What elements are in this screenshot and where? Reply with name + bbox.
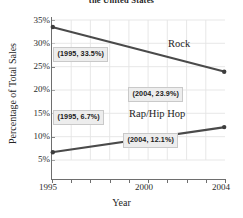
x-tick-label-1995: 1995 bbox=[39, 183, 57, 192]
x-tick-mark-1997 bbox=[90, 179, 91, 183]
y-tick-label-15: 15% bbox=[4, 109, 50, 118]
y-tick-label-30: 30% bbox=[4, 39, 50, 48]
data-point-rap-1995 bbox=[51, 150, 55, 154]
y-tick-label-25: 25% bbox=[4, 62, 50, 71]
rap-1995-callout: (1995, 6.7%) bbox=[53, 110, 104, 125]
rap-2004-callout: (2004, 12.1%) bbox=[123, 133, 178, 148]
rock-2004-callout: (2004, 23.9%) bbox=[128, 87, 183, 102]
y-tick-label-20: 20% bbox=[4, 85, 50, 94]
x-tick-mark-1996 bbox=[71, 179, 72, 183]
rock-1995-callout: (1995, 33.5%) bbox=[53, 47, 108, 62]
series-label-rap-hip-hop: Rap/Hip Hop bbox=[129, 108, 185, 119]
x-tick-mark-2001 bbox=[167, 179, 168, 183]
x-axis-label: Year bbox=[0, 197, 243, 208]
y-tick-label-5: 5% bbox=[4, 155, 50, 164]
x-tick-label-2004: 2004 bbox=[212, 183, 230, 192]
data-point-rock-1995 bbox=[51, 25, 55, 29]
series-label-rock: Rock bbox=[168, 38, 190, 49]
data-point-rock-2004 bbox=[222, 70, 226, 74]
x-tick-mark-1998 bbox=[110, 179, 111, 183]
data-point-rap-2004 bbox=[222, 125, 226, 129]
y-tick-label-35: 35% bbox=[4, 16, 50, 25]
x-axis-line bbox=[51, 179, 226, 180]
x-tick-mark-1999 bbox=[129, 179, 130, 183]
x-tick-mark-2003 bbox=[206, 179, 207, 183]
y-tick-label-10: 10% bbox=[4, 132, 50, 141]
x-tick-mark-2002 bbox=[187, 179, 188, 183]
x-tick-label-2000: 2000 bbox=[135, 183, 153, 192]
chart-container: the United States Percentage of Total Sa… bbox=[0, 0, 243, 218]
